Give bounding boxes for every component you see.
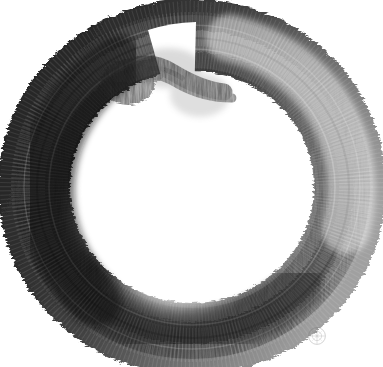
enso-painting (0, 0, 383, 367)
inner-edge-light-leak (84, 178, 132, 246)
artist-seal (306, 325, 328, 347)
artwork-canvas: Enso sumi ink brush painting artist seal (0, 0, 383, 367)
inner-glow (126, 230, 234, 306)
